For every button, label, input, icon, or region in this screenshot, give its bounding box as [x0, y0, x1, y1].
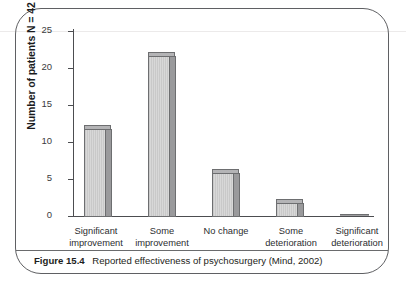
bar-chart: Number of patients N = 42 25 20 15 10 5 …: [0, 0, 406, 290]
x-label-some-improvement: Some improvement: [126, 226, 198, 249]
x-label-line1-significant-improvement: Significant: [75, 226, 118, 236]
figure-caption-label: Figure 15.4: [34, 255, 85, 266]
y-axis-title: Number of patients N = 42: [25, 1, 37, 131]
bar-side-some-improvement: [169, 56, 176, 217]
bar-significant-improvement: [84, 129, 106, 217]
bar-side-significant-improvement: [105, 129, 112, 217]
figure-caption-text: Reported effectiveness of psychosurgery …: [92, 255, 322, 266]
y-axis-line: [73, 29, 74, 217]
caption-divider: [16, 250, 388, 251]
y-tick-label-15-text: 15: [41, 98, 52, 109]
x-label-line2-some-improvement: improvement: [126, 238, 198, 250]
bar-some-deterioration: [276, 203, 298, 217]
figure-caption: Figure 15.4 Reported effectiveness of ps…: [34, 255, 323, 266]
x-label-line1-some-deterioration: Some: [279, 226, 303, 236]
bar-no-change: [212, 173, 234, 217]
bar-side-some-deterioration: [297, 203, 304, 217]
y-tick-label-5-text: 5: [47, 172, 52, 183]
bar-side-no-change: [233, 173, 240, 217]
y-tick-label-20-text: 20: [41, 61, 52, 72]
y-tick-label-25-text: 25: [41, 24, 52, 35]
x-label-line2-significant-deterioration: deterioration: [318, 238, 396, 250]
y-tick-label-0-text: 0: [47, 209, 52, 220]
x-label-significant-improvement: Significant improvement: [60, 226, 132, 249]
bar-significant-deterioration: [340, 214, 369, 216]
y-tick-label-10-text: 10: [41, 135, 52, 146]
x-label-line1-some-improvement: Some: [150, 226, 174, 236]
x-label-line2-significant-improvement: improvement: [60, 238, 132, 250]
x-label-line1-significant-deterioration: Significant: [336, 226, 379, 236]
bar-some-improvement: [148, 56, 170, 217]
x-label-line1-no-change: No change: [204, 226, 249, 236]
x-label-significant-deterioration: Significant deterioration: [318, 226, 396, 249]
